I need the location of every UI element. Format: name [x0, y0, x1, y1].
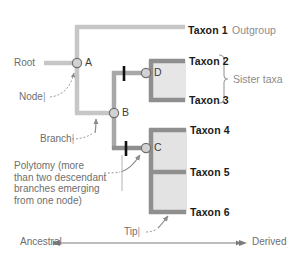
diagram-canvas: Taxon 1 Outgroup Taxon 2 Taxon 3 Taxon 4… [0, 0, 298, 256]
root-callout-label: Root [14, 57, 35, 69]
node-circle-b[interactable] [109, 108, 118, 117]
node-circle-a[interactable] [72, 58, 81, 67]
node-callout-tick: | [43, 91, 46, 102]
sister-taxa-label: Sister taxa [233, 74, 283, 85]
node-circle-c[interactable] [141, 143, 150, 152]
taxon-6-label: Taxon 6 [190, 207, 230, 218]
taxon-5-label: Taxon 5 [190, 167, 230, 178]
tip-callout-leader [158, 216, 168, 228]
node-circle-d[interactable] [141, 68, 150, 77]
taxon-3-label: Taxon 3 [189, 95, 229, 106]
polytomy-line-2: than two descendant [14, 172, 122, 184]
taxon-4-label: Taxon 4 [190, 125, 230, 136]
tip-callout-text: Tip [124, 226, 138, 237]
taxon-1-name: Taxon 1 [188, 24, 228, 36]
phylogenetic-tree-graphic [0, 0, 298, 256]
taxon-2-label: Taxon 2 [189, 56, 229, 67]
node-callout-leader [50, 73, 74, 97]
branch-callout-label: Branch| [40, 133, 74, 145]
tip-callout-tick: | [138, 226, 141, 237]
node-callout-label: Node| [19, 91, 46, 103]
axis-right-label: Derived [252, 237, 286, 247]
branch-callout-tick: | [72, 133, 75, 144]
polytomy-line-1: Polytomy (more [14, 160, 122, 172]
taxon-1-label: Taxon 1 Outgroup [188, 21, 276, 37]
polytomy-callout-label: Polytomy (more than two descendant branc… [14, 160, 122, 206]
node-c-label: C [154, 142, 162, 153]
node-callout-text: Node [19, 91, 43, 102]
node-a-label: A [85, 57, 92, 68]
tip-callout-dash [146, 229, 157, 232]
polytomy-line-3: branches emerging [14, 183, 122, 195]
polytomy-callout-leader [121, 155, 140, 172]
node-b-label: B [122, 107, 129, 118]
branch-callout-dash [72, 133, 93, 139]
taxon-1-note: Outgroup [232, 24, 276, 36]
axis-arrowhead-right [239, 240, 247, 246]
tip-callout-label: Tip| [124, 226, 140, 238]
axis-left-label: Ancestral [20, 237, 62, 247]
node-d-label: D [154, 67, 162, 78]
branch-callout-text: Branch [40, 133, 72, 144]
branch-callout-leader [95, 119, 96, 133]
polytomy-line-4: from one node) [14, 195, 122, 207]
